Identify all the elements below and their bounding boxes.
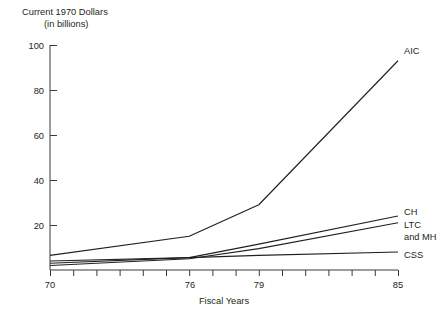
series-line-ltc-and-mh xyxy=(50,223,398,266)
chart-title-line1: Current 1970 Dollars xyxy=(22,7,108,17)
series-label-css: CSS xyxy=(404,250,423,260)
x-tick-label-76: 76 xyxy=(185,280,195,290)
series-label-ch: CH xyxy=(404,207,417,217)
y-tick-label-20: 20 xyxy=(34,221,44,231)
y-tick-label-100: 100 xyxy=(28,41,44,51)
series-label-aic: AIC xyxy=(404,46,420,56)
y-tick-label-60: 60 xyxy=(34,131,44,141)
y-tick-label-80: 80 xyxy=(34,86,44,96)
x-tick-label-85: 85 xyxy=(393,280,403,290)
chart-title-line2: (in billions) xyxy=(44,19,88,29)
x-tick-label-70: 70 xyxy=(45,280,55,290)
axis-spine xyxy=(50,45,398,270)
series-label-ltc-line2: and MH xyxy=(404,232,437,242)
chart-canvas: Current 1970 Dollars (in billions) 100 8… xyxy=(0,0,441,312)
x-tick-label-79: 79 xyxy=(254,280,264,290)
x-axis-title: Fiscal Years xyxy=(199,296,249,306)
series-label-ltc-line1: LTC xyxy=(404,220,421,230)
line-chart: Current 1970 Dollars (in billions) 100 8… xyxy=(0,0,441,312)
series-group xyxy=(50,61,398,266)
y-tick-label-40: 40 xyxy=(34,176,44,186)
